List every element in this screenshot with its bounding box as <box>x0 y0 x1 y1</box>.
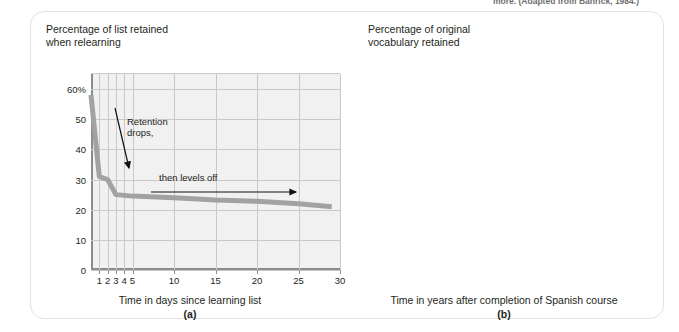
x-axis-tick <box>108 270 109 274</box>
figure-root: more. (Adapted from Bahrick, 1984.) Perc… <box>0 0 679 332</box>
gridline-vertical <box>257 74 258 270</box>
panel-b-sub-label: (b) <box>350 308 658 320</box>
panel-a-x-axis-title: Time in days since learning list <box>30 294 350 306</box>
x-tick-label: 20 <box>252 275 263 286</box>
x-axis-tick <box>133 270 134 274</box>
gridline-vertical <box>108 74 109 270</box>
x-tick-label: 4 <box>122 275 127 286</box>
x-axis-tick <box>174 270 175 274</box>
gridline-vertical <box>99 74 100 270</box>
x-axis-tick <box>299 270 300 274</box>
y-tick-label: 50 <box>75 114 86 125</box>
x-axis-tick <box>116 270 117 274</box>
annotation-label: then levels off <box>159 172 217 183</box>
gridline-vertical <box>299 74 300 270</box>
gridline-vertical <box>133 74 134 270</box>
y-tick-label: 60% <box>67 84 86 95</box>
y-tick-label: 0 <box>81 265 86 276</box>
panel-a-sub-label: (a) <box>30 308 350 320</box>
y-tick-label: 20 <box>75 204 86 215</box>
panel-b-title: Percentage of original vocabulary retain… <box>368 23 470 48</box>
x-axis-tick <box>340 270 341 274</box>
x-axis-tick <box>99 270 100 274</box>
y-tick-label: 40 <box>75 144 86 155</box>
y-tick-label: 30 <box>75 174 86 185</box>
x-axis-tick <box>257 270 258 274</box>
x-tick-label: 15 <box>210 275 221 286</box>
annotation-label: Retention drops, <box>127 116 168 138</box>
gridline-vertical <box>116 74 117 270</box>
panel-a: Percentage of list retained when relearn… <box>30 11 350 319</box>
panel-b-x-axis-title: Time in years after completion of Spanis… <box>350 294 658 306</box>
source-caption: more. (Adapted from Bahrick, 1984.) <box>0 0 679 6</box>
x-tick-label: 1 <box>97 275 102 286</box>
gridline-vertical <box>340 74 341 270</box>
panel-a-title: Percentage of list retained when relearn… <box>46 23 168 48</box>
x-tick-label: 10 <box>169 275 180 286</box>
x-tick-label: 3 <box>113 275 118 286</box>
panel-a-plot-area: 0102030405060%123451015202530Retention d… <box>91 73 340 270</box>
x-axis-tick <box>124 270 125 274</box>
x-axis-tick <box>216 270 217 274</box>
gridline-vertical <box>124 74 125 270</box>
x-tick-label: 2 <box>105 275 110 286</box>
x-tick-label: 5 <box>130 275 135 286</box>
y-tick-label: 10 <box>75 234 86 245</box>
retention-curve <box>91 95 332 207</box>
x-tick-label: 25 <box>293 275 304 286</box>
x-tick-label: 30 <box>335 275 346 286</box>
panel-b: Percentage of original vocabulary retain… <box>356 11 664 319</box>
